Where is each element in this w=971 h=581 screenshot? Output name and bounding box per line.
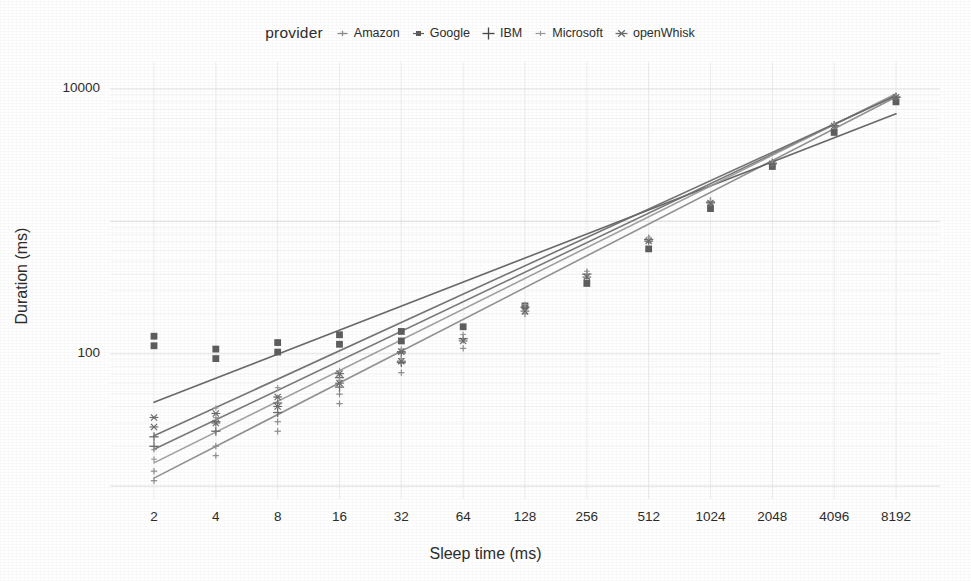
x-tick-label: 2048: [742, 509, 802, 524]
amazon-marker-icon: [335, 26, 350, 41]
x-tick-label: 2: [124, 509, 184, 524]
legend-item-google[interactable]: Google: [411, 26, 470, 41]
x-tick-label: 4096: [804, 509, 864, 524]
legend-label-google: Google: [430, 26, 470, 40]
chart-legend: provider Amazon: [0, 24, 971, 42]
legend-title: provider: [265, 24, 323, 42]
ibm-marker-icon: [481, 26, 496, 41]
y-axis-title-text: Duration (ms): [13, 227, 31, 324]
x-tick-label: 16: [310, 509, 370, 524]
x-tick-label: 128: [495, 509, 555, 524]
x-tick-label: 4: [186, 509, 246, 524]
data-point: [274, 428, 280, 434]
data-point: [212, 355, 219, 362]
data-point: [336, 341, 343, 348]
x-tick-label: 8: [248, 509, 308, 524]
google-marker-icon: [411, 26, 426, 41]
legend-item-ibm[interactable]: IBM: [481, 26, 522, 41]
data-point: [274, 349, 281, 356]
data-point: [645, 245, 652, 252]
x-tick-label: 64: [433, 509, 493, 524]
x-axis-title: Sleep time (ms): [0, 545, 971, 563]
x-tick-label: 1024: [681, 509, 741, 524]
data-point: [336, 391, 342, 397]
data-point: [584, 268, 590, 274]
x-tick-label: 32: [371, 509, 431, 524]
x-tick-label: 256: [557, 509, 617, 524]
legend-item-amazon[interactable]: Amazon: [335, 26, 400, 41]
plot-canvas: [110, 62, 940, 499]
data-point: [151, 477, 157, 483]
legend-label-ibm: IBM: [500, 26, 522, 40]
x-tick-label: 512: [619, 509, 679, 524]
data-point: [583, 280, 590, 287]
legend-label-microsoft: Microsoft: [552, 26, 603, 40]
data-point: [274, 339, 281, 346]
data-point: [336, 331, 343, 338]
data-point: [212, 346, 219, 353]
data-point: [460, 323, 467, 330]
data-point: [151, 333, 158, 340]
x-tick-label: 8192: [866, 509, 926, 524]
legend-item-microsoft[interactable]: Microsoft: [533, 26, 603, 41]
y-tick-label: 100: [30, 345, 100, 360]
chart-figure: provider Amazon: [0, 0, 971, 581]
data-point: [398, 338, 405, 345]
grid-lines: [110, 62, 940, 499]
y-tick-label: 10000: [30, 80, 100, 95]
data-point: [336, 400, 342, 406]
data-point: [398, 328, 405, 335]
data-point: [151, 468, 157, 474]
microsoft-marker-icon: [533, 26, 548, 41]
data-point: [151, 342, 158, 349]
legend-label-openwhisk: openWhisk: [633, 26, 695, 40]
data-point: [460, 332, 466, 338]
legend-label-amazon: Amazon: [354, 26, 400, 40]
openwhisk-marker-icon: [614, 26, 629, 41]
data-point: [398, 369, 404, 375]
legend-item-openwhisk[interactable]: openWhisk: [614, 26, 695, 41]
data-point: [460, 345, 466, 351]
data-point: [213, 452, 219, 458]
data-point: [274, 419, 280, 425]
plot-panel: [110, 62, 940, 499]
